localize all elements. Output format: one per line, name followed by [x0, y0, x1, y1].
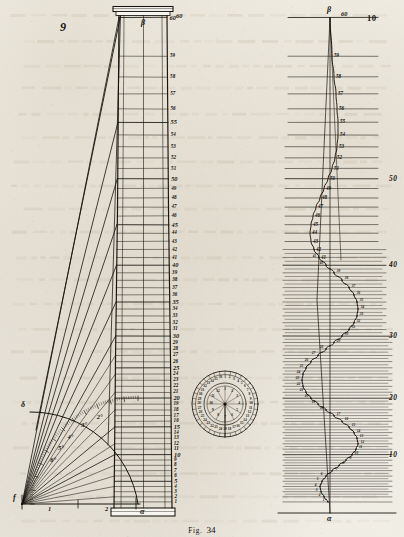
dial-outer-number: 17	[232, 427, 236, 431]
plate-linework	[0, 0, 404, 537]
figure-9-scale-label: 29	[173, 340, 178, 345]
figure-10-curve-point-label: 1	[323, 499, 325, 502]
figure-9-scale-label: 40	[172, 262, 178, 268]
figure-9-scale-label: 59	[170, 53, 175, 58]
dial-outer-number: 34	[210, 380, 214, 384]
figure-10-curve-point-label: 23	[296, 377, 299, 380]
dial-outer-number: 19	[223, 428, 227, 432]
figure-10-curve-point-label: 11	[359, 446, 362, 449]
illustration-plate: 9 10 β α f δ 60 β α 60 60595857565554535…	[0, 0, 404, 537]
figure-10-curve-point-label: 10	[355, 452, 358, 455]
figure-9-alpha-label: α	[140, 508, 144, 516]
figure-9-scale-label: 46	[172, 213, 177, 218]
figure-10-scale-label: 42	[316, 247, 321, 252]
dial-inner-number: 1	[224, 388, 226, 392]
dial-outer-number: 30	[199, 393, 203, 397]
dial-outer-number: 21	[214, 427, 218, 431]
baseline-tick-label: 1	[48, 506, 51, 512]
figure-10-curve-point-label: 4	[315, 484, 317, 487]
figure-10-scale-label: 49	[326, 186, 331, 191]
arc-degree-label: 6°	[50, 457, 56, 463]
dial-outer-number: 18	[228, 428, 232, 432]
figure-9-scale-label: 37	[172, 285, 177, 290]
figure-9-group	[22, 7, 175, 517]
figure-10-scale-label: 47	[318, 204, 323, 209]
column-graduation-lines	[114, 17, 172, 502]
figure-9-scale-label: 31	[173, 326, 178, 331]
figure-10-curve-point-label: 33	[360, 313, 363, 316]
dial-inner-number: 9	[212, 409, 214, 413]
figure-10-curve-point-label: 20	[305, 395, 308, 398]
figure-9-scale-label: 34	[173, 306, 178, 311]
figure-10-curve-point-label: 13	[360, 435, 363, 438]
figure-9-scale-label: 53	[171, 144, 176, 149]
figure-10-scale-label: 51	[334, 166, 339, 171]
dial-outer-number: 15	[240, 422, 244, 426]
figure-9-scale-label: 58	[170, 74, 175, 79]
figure-9-scale-label: 60	[170, 15, 176, 21]
figure-10-curve-point-label: 15	[352, 424, 355, 427]
figure-10-curve-point-label: 12	[361, 441, 364, 444]
figure-9-scale-label: 28	[173, 346, 178, 351]
figure-10-curve-point-label: 32	[357, 320, 360, 323]
origin-point-label: f	[13, 494, 16, 502]
tangent-line-lower	[108, 16, 121, 445]
figure-10-curve-point-label: 19	[312, 401, 315, 404]
figure-10-curve-point-label: 39	[337, 270, 340, 273]
figure-10-curve-point-label: 38	[345, 278, 348, 281]
figure-10-decade-label: 40	[389, 261, 398, 268]
figure-10-curve-point-label: 35	[360, 299, 363, 302]
dial-outer-number: 27	[198, 407, 202, 411]
dial-outer-number: 26	[199, 411, 203, 415]
figure-10-curve-point-label: 22	[297, 384, 300, 387]
figure-9-scale-label: 36	[172, 292, 177, 297]
dial-outer-number: 32	[203, 386, 207, 390]
dial-inner-number: 5	[236, 409, 238, 413]
figure-10-curve-point-label: 5	[317, 479, 319, 482]
figure-10-curve-point-label: 6	[321, 473, 323, 476]
figure-9-scale-label: 33	[173, 313, 178, 318]
dial-outer-number: 25	[201, 415, 205, 419]
figure-9-scale-label: 52	[171, 155, 176, 160]
baseline-tick-label: 2	[105, 506, 108, 512]
figure-9-scale-label: 50	[171, 176, 177, 182]
figure-10-scale-label: 53	[339, 144, 344, 149]
figure-10-scale-label: 59	[334, 53, 339, 58]
dial-outer-number: 3	[233, 378, 235, 382]
figure-10-curve-point-label: 34	[361, 306, 364, 309]
figure-10-curve-point-label: 14	[357, 430, 360, 433]
figure-10-curve-point-label: 17	[337, 413, 340, 416]
arc-degree-label: 5°	[58, 445, 64, 451]
figure-10-curve-point-label: 9	[350, 457, 352, 460]
figure-9-scale-label: 44	[172, 230, 177, 235]
figure-9-scale-label: 38	[172, 277, 177, 282]
figure-10-decade-label: 10	[389, 451, 398, 458]
figure-10-curve-point-label: 26	[305, 359, 308, 362]
dial-inner-number: 2	[231, 390, 233, 394]
figure-10-scale-label: 45	[313, 222, 318, 227]
figure-10-decade-label: 50	[389, 175, 398, 182]
figure-9-scale-label: 45	[172, 222, 178, 228]
arc-degree-label: 3°	[81, 422, 87, 428]
figure-9-scale-label: 32	[173, 320, 178, 325]
figure-9-scale-label: 43	[172, 239, 177, 244]
dial-outer-number: 16	[236, 425, 240, 429]
dial-outer-number: 1	[224, 376, 226, 380]
figure-10-scale-label: 58	[336, 74, 341, 79]
figure-9-scale-label: 56	[170, 106, 175, 111]
figure-9-scale-label: 48	[171, 195, 176, 200]
dial-outer-number: 20	[219, 428, 223, 432]
figure-9-top-scale-label: 60	[176, 13, 182, 19]
dial-inner-number: 3	[236, 395, 238, 399]
figure-10-scale-label: 55	[340, 119, 345, 124]
figure-9-scale-label: 54	[171, 132, 176, 137]
arc-start-label: δ	[21, 401, 25, 409]
figure-10-curve-point-label: 18	[320, 407, 323, 410]
dial-outer-number: 23	[207, 422, 211, 426]
dial-inner-number: 8	[217, 414, 219, 418]
dial-outer-number: 28	[197, 402, 201, 406]
figure-10-beta-label: β	[327, 6, 331, 14]
figure-9-scale-label: 1	[174, 499, 177, 504]
figure-10-curve-point-label: 3	[316, 489, 318, 492]
figure-10-curve-point-label: 36	[357, 292, 360, 295]
